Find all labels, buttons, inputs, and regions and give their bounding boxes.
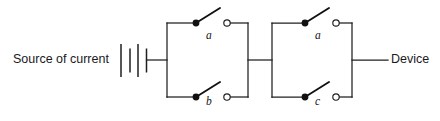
switch-blade[interactable] [305,8,329,23]
switch-open-terminal [224,94,230,100]
switch-blade[interactable] [196,8,220,23]
switch-pivot-dot [193,94,200,101]
switch-pivot-dot [193,20,200,27]
switch-open-terminal [333,94,339,100]
switch-label-b-lower-left: b [206,96,212,108]
source-of-current-label: Source of current [13,53,109,66]
switch-label-c-lower-right: c [315,96,320,108]
switch-label-a-upper-left: a [206,30,212,42]
switch-open-terminal [224,20,230,26]
circuit-diagram-canvas: Source of current Device a b a c [0,0,440,121]
switch-open-terminal [333,20,339,26]
switch-pivot-dot [302,20,309,27]
battery-icon [121,44,147,77]
switch-a-upper-left[interactable] [193,8,231,26]
device-label: Device [391,53,429,66]
switch-label-a-upper-right: a [315,30,321,42]
switch-pivot-dot [302,94,309,101]
switch-c-lower-right[interactable] [302,82,340,100]
switch-a-upper-right[interactable] [302,8,340,26]
